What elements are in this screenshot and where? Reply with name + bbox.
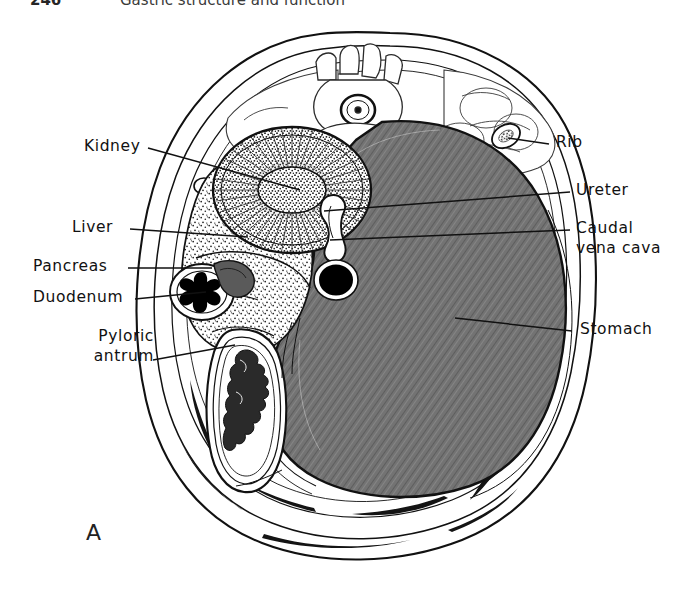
label-pancreas: Pancreas xyxy=(33,257,107,277)
label-kidney-text: Kidney xyxy=(84,137,140,155)
label-kidney: Kidney xyxy=(84,137,140,157)
label-pyloric-antrum: Pyloric antrum xyxy=(68,327,154,367)
pyloric-antrum xyxy=(207,329,287,492)
label-stomach: Stomach xyxy=(580,320,653,340)
spinal-cord-center xyxy=(355,107,361,113)
label-caudal-vena-cava: Caudal vena cava xyxy=(576,219,661,259)
caudal-vena-cava xyxy=(314,260,358,300)
panel-label: A xyxy=(86,520,101,545)
label-pyloric-antrum-line1: Pyloric xyxy=(68,327,154,347)
label-rib: Rib xyxy=(556,133,583,153)
label-stomach-text: Stomach xyxy=(580,320,653,338)
label-duodenum-text: Duodenum xyxy=(33,288,123,306)
label-ureter: Ureter xyxy=(576,181,629,201)
label-duodenum: Duodenum xyxy=(33,288,123,308)
label-ureter-text: Ureter xyxy=(576,181,629,199)
label-caudal-vena-cava-line1: Caudal xyxy=(576,219,661,239)
label-liver: Liver xyxy=(72,218,113,238)
label-caudal-vena-cava-line2: vena cava xyxy=(576,239,661,259)
figure-page: 246 Gastric structure and function xyxy=(0,0,700,597)
label-rib-text: Rib xyxy=(556,133,583,151)
label-liver-text: Liver xyxy=(72,218,113,236)
label-pyloric-antrum-line2: antrum xyxy=(68,347,154,367)
label-pancreas-text: Pancreas xyxy=(33,257,107,275)
